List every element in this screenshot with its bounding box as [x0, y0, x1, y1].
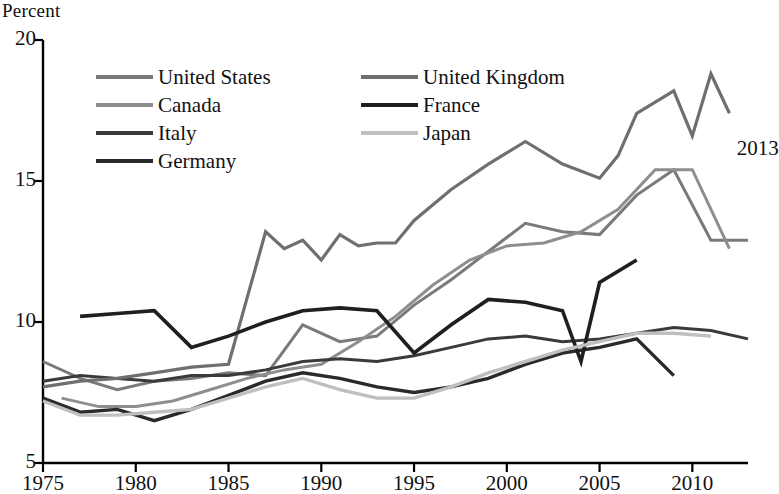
legend-label: France [423, 95, 480, 116]
legend-item[interactable]: Italy [96, 119, 271, 147]
legend-swatch-icon [361, 75, 418, 79]
legend-label: Canada [158, 95, 221, 116]
legend-column-right: United KingdomFranceJapan [361, 63, 565, 147]
legend-label: Italy [158, 123, 196, 144]
y-axis-tick-label: 20 [0, 26, 36, 51]
legend-label: Germany [158, 151, 236, 172]
legend-swatch-icon [361, 103, 418, 107]
legend-swatch-icon [96, 131, 153, 135]
legend-label: United States [158, 67, 271, 88]
legend-item[interactable]: United Kingdom [361, 63, 565, 91]
legend-swatch-icon [96, 103, 153, 107]
x-axis-tick-label: 1975 [8, 471, 78, 494]
chart-annotation: 2013 [737, 136, 779, 161]
legend-item[interactable]: France [361, 91, 565, 119]
series-line-france [80, 260, 637, 362]
y-axis-tick-label: 15 [0, 167, 36, 192]
x-axis-tick-label: 2005 [565, 471, 635, 494]
x-axis-tick-label: 1980 [101, 471, 171, 494]
legend-item[interactable]: Germany [96, 147, 271, 175]
legend-swatch-icon [361, 131, 418, 135]
x-axis-tick-label: 2000 [472, 471, 542, 494]
x-axis-tick-label: 1990 [286, 471, 356, 494]
series-line-united-states [43, 170, 748, 390]
y-axis-tick-label: 10 [0, 308, 36, 333]
legend-label: United Kingdom [423, 67, 565, 88]
legend-column-left: United StatesCanadaItalyGermany [96, 63, 271, 175]
legend-item[interactable]: Canada [96, 91, 271, 119]
legend-label: Japan [423, 123, 471, 144]
legend-item[interactable]: United States [96, 63, 271, 91]
legend-swatch-icon [96, 75, 153, 79]
legend-swatch-icon [96, 159, 153, 163]
x-axis-tick-label: 1985 [194, 471, 264, 494]
x-axis-tick-label: 2010 [657, 471, 727, 494]
x-axis-tick-label: 1995 [379, 471, 449, 494]
legend-item[interactable]: Japan [361, 119, 565, 147]
